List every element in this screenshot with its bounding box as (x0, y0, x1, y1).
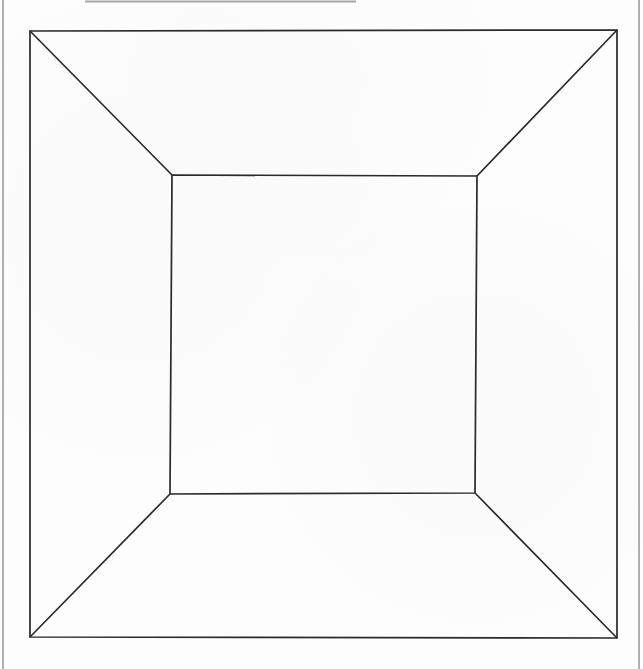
scanned-page (0, 0, 643, 669)
perspective-box-figure (0, 0, 643, 669)
